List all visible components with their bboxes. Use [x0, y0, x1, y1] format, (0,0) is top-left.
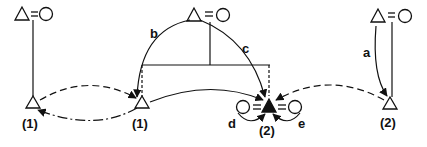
bottom-center-left-triangle-icon [135, 96, 149, 108]
bottom-right-label: (2) [380, 115, 396, 130]
top-right-node [371, 9, 412, 23]
bottom-left-label: (1) [22, 116, 38, 131]
solid-arc-to-filled [150, 89, 263, 102]
top-center-node [187, 8, 230, 22]
circle-icon [237, 101, 250, 114]
filled-triangle-icon [262, 99, 276, 112]
bottom-left-triangle-icon [26, 96, 40, 108]
arrow-e [273, 113, 300, 121]
triangle-icon [371, 9, 385, 22]
arrow-a [375, 26, 387, 96]
bottom-right-triangle-icon [383, 97, 397, 109]
dashdot-arc-center-to-left [38, 108, 137, 121]
arrow-a-label: a [363, 45, 371, 60]
triangle-icon [187, 8, 201, 21]
dashed-arc-left-to-center [40, 85, 136, 100]
bottom-center-node [237, 99, 302, 114]
triangle-icon [15, 7, 29, 20]
circle-icon [399, 10, 412, 23]
arrow-b-label: b [150, 26, 158, 41]
arrow-c-label: c [242, 41, 249, 56]
top-left-node [15, 7, 53, 21]
circle-icon [217, 9, 230, 22]
bottom-center-left-label: (1) [132, 116, 148, 131]
relation-diagram: (1) b c (1) d e (2) [0, 0, 427, 147]
circle-icon [40, 8, 53, 21]
bottom-center-label: (2) [259, 123, 275, 138]
arrow-b [137, 20, 190, 97]
arrow-e-label: e [298, 116, 305, 131]
arrow-d [238, 113, 265, 121]
circle-icon [289, 101, 302, 114]
arrow-d-label: d [228, 116, 236, 131]
dashed-arc-right-to-filled [276, 85, 384, 100]
